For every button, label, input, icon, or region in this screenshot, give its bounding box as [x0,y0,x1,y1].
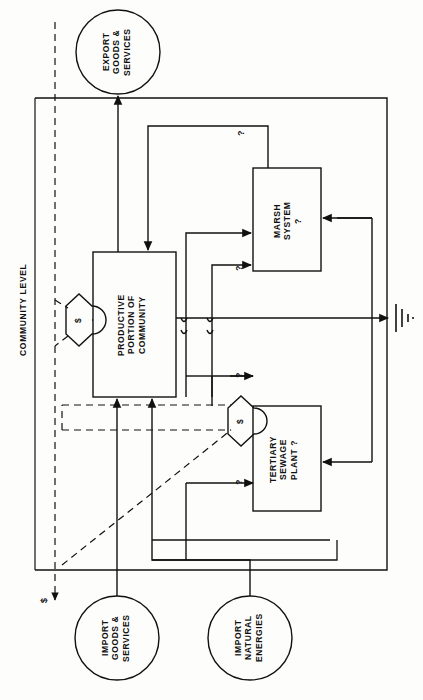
import-goods-services-label: IMPORT GOODS & SERVICES [100,600,136,676]
flow-label-unknown-4: ? [234,476,244,488]
productive-portion-of-community-label: PRODUCTIVE PORTION OF COMMUNITY [116,262,154,388]
diagram-svg [0,0,423,700]
flow-lower-to-sewage-plant [186,483,253,560]
bottom-rail-lines [152,540,337,560]
diagram-canvas: COMMUNITY LEVEL EXPORT GOODS & SERVICES … [0,0,423,700]
transaction-dollar-symbol-1: $ [73,313,85,327]
money-flow-dashed-lines [55,22,62,600]
flow-import-natural-to-system [152,399,250,596]
money-line-diagonal [62,430,231,565]
tertiary-sewage-plant-label: TERTIARY SEWAGE PLANT ? [268,418,308,502]
heat-sink-ground-icon [396,304,413,332]
flow-label-money: $ [39,594,51,606]
transaction-symbol-sewage-payment [228,396,267,446]
flow-productive-to-marsh-lower [212,265,251,397]
flow-label-unknown-2: ? [234,262,244,274]
marsh-system-label: MARSH SYSTEM ? [272,180,304,262]
flow-marsh-to-productive-feedback [148,126,268,250]
export-goods-services-label: EXPORT GOODS & SERVICES [101,14,137,90]
import-natural-energies-label: IMPORT NATURAL ENERGIES [233,600,269,676]
flow-sewage-to-productive [186,376,212,406]
community-level-axis-label: COMMUNITY LEVEL [18,230,32,390]
money-line-sewage [62,405,231,430]
transaction-dollar-symbol-2: $ [235,414,247,428]
flow-feedback-marsh-right [323,218,372,462]
flow-label-unknown-3: ? [234,369,244,381]
community-boundary-frame [35,98,387,570]
transaction-symbol-community-export [66,294,106,346]
flow-label-unknown-1: ? [236,127,246,139]
